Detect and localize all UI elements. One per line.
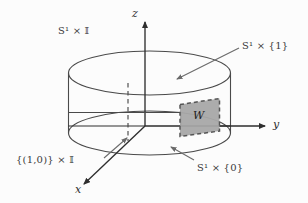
label-bottom-circle: S¹ × {0} [197, 163, 243, 173]
label-z-axis: z [132, 8, 138, 19]
label-y-axis: y [273, 119, 279, 130]
label-fiber: {(1,0)} × 𝕀 [16, 155, 74, 165]
cylinder-diagram-canvas [0, 0, 308, 203]
label-cylinder: S¹ × 𝕀 [58, 26, 89, 36]
coordinate-axes [69, 22, 266, 184]
math-diagram-figure: S¹ × 𝕀 S¹ × {1} S¹ × {0} {(1,0)} × 𝕀 W z… [0, 0, 308, 203]
label-x-axis: x [75, 184, 81, 195]
label-w: W [193, 110, 205, 121]
label-top-circle: S¹ × {1} [242, 41, 288, 51]
leader-top-circle [177, 48, 239, 79]
cylinder-top-circle [69, 51, 231, 95]
leader-fiber [104, 138, 127, 158]
